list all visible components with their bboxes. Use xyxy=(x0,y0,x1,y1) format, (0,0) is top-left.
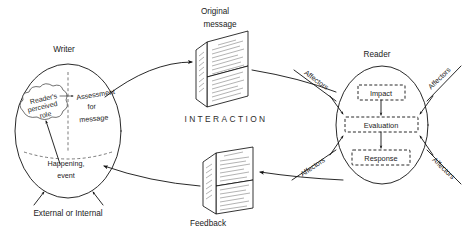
external-source-arrow-left xyxy=(34,192,44,205)
feedback-to-writer-arrow xyxy=(104,166,200,186)
original-message-fold-edge xyxy=(196,42,207,107)
writer-label: Writer xyxy=(53,45,75,54)
evaluation-label: Evaluation xyxy=(364,121,399,130)
assessment-line3: message xyxy=(79,113,109,125)
communication-model-diagram: Writer Reader INTERACTION Reader's perce… xyxy=(0,0,464,233)
original-message-line1: Original xyxy=(201,7,229,16)
writer-ellipse-group xyxy=(15,64,121,205)
external-or-internal-label: External or Internal xyxy=(33,209,102,218)
interaction-label: INTERACTION xyxy=(184,114,267,124)
affector-label-lower-left: Affectors xyxy=(299,156,327,178)
feedback-document xyxy=(203,147,253,214)
original-message-line2: message xyxy=(203,20,237,29)
happening-to-cloud-arrow xyxy=(46,121,60,164)
reader-label: Reader xyxy=(364,50,391,59)
happening-line2: event xyxy=(57,171,75,180)
response-label: Response xyxy=(364,154,397,163)
affector-label-lower-right: Affectors xyxy=(431,156,457,181)
diagram-canvas: Writer Reader INTERACTION Reader's perce… xyxy=(0,0,464,233)
happening-line1: Happening, xyxy=(48,159,85,168)
writer-to-message-arrow xyxy=(105,62,192,97)
assessment-line2: for xyxy=(87,102,97,112)
feedback-fold-edge xyxy=(203,153,216,214)
assessment-line1: Assessment xyxy=(76,87,116,102)
external-source-arrow-right xyxy=(93,192,103,205)
impact-label: Impact xyxy=(370,89,392,98)
affector-label-upper-left: Affectors xyxy=(303,69,331,92)
writer-horizontal-divider xyxy=(24,152,112,159)
original-message-document xyxy=(196,31,248,107)
feedback-label: Feedback xyxy=(190,219,227,228)
